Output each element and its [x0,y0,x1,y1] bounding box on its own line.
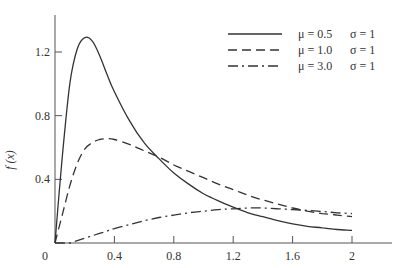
legend-mu-label: μ = 1.0 [298,43,332,57]
legend: μ = 0.5σ = 1μ = 1.0σ = 1μ = 3.0σ = 1 [228,27,375,73]
chart: 0.40.81.2 0.40.81.21.62 0 f (x) μ = 0.5σ… [0,0,411,268]
y-tick-label: 0.4 [35,172,50,186]
legend-sigma-label: σ = 1 [350,27,375,41]
legend-mu-label: μ = 3.0 [298,59,332,73]
y-tick-label: 1.2 [35,45,50,59]
x-tick-label: 0.8 [166,249,181,263]
legend-sigma-label: σ = 1 [350,43,375,57]
y-axis-label: f (x) [3,150,17,170]
axes [55,15,392,243]
y-ticks: 0.40.81.2 [35,45,62,186]
curve-dashed [55,139,352,243]
curve-dashdot [55,208,352,243]
origin-label: 0 [42,249,48,263]
x-tick-label: 1.2 [226,249,241,263]
legend-mu-label: μ = 0.5 [298,27,332,41]
x-tick-label: 1.6 [285,249,300,263]
x-ticks: 0.40.81.21.62 [107,236,355,263]
x-tick-label: 2 [349,249,355,263]
legend-sigma-label: σ = 1 [350,59,375,73]
y-tick-label: 0.8 [35,109,50,123]
x-tick-label: 0.4 [107,249,122,263]
